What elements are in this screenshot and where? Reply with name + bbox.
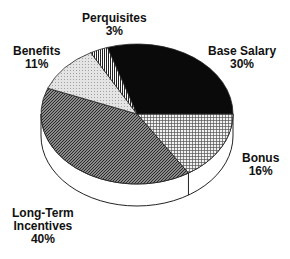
label-perquisites-pct: 3% [82,25,147,38]
label-lti-pct: 40% [12,233,74,246]
label-perquisites: Perquisites 3% [82,12,147,38]
label-benefits-pct: 11% [13,58,60,71]
label-bonus-pct: 16% [242,165,279,178]
label-long-term-incentives: Long-Term Incentives 40% [12,207,74,246]
label-bonus: Bonus 16% [242,152,279,178]
label-base-salary: Base Salary 30% [208,45,276,71]
label-base-salary-pct: 30% [208,58,276,71]
label-benefits: Benefits 11% [13,45,60,71]
pie-slices [41,44,233,184]
